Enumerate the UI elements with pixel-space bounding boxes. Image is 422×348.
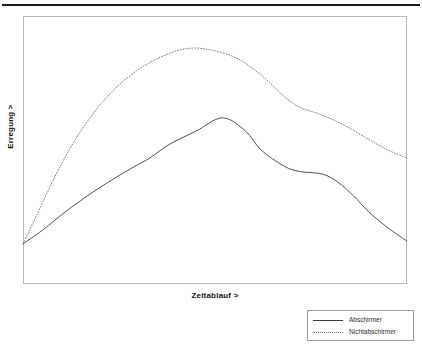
legend-label: Nichtabschirmer (349, 328, 396, 336)
series-line-nichtabschirmer (23, 48, 407, 244)
legend-item-nichtabschirmer: Nichtabschirmer (308, 326, 413, 338)
top-rule-divider (2, 4, 420, 6)
x-axis-label: Zeitablauf > (23, 291, 407, 300)
legend-label: Abschirmer (349, 316, 382, 324)
plot-area (23, 16, 407, 284)
series-group (23, 48, 407, 244)
legend-line-sample-solid-icon (313, 317, 343, 324)
y-axis-label: Erregung > (6, 79, 15, 175)
chart-legend: Abschirmer Nichtabschirmer (307, 310, 414, 341)
legend-item-abschirmer: Abschirmer (308, 314, 413, 326)
figure-container: Erregung > Zeitablauf > Abschirmer Nicht… (0, 0, 422, 348)
series-line-abschirmer (23, 118, 407, 244)
legend-line-sample-dotted-icon (313, 329, 343, 336)
